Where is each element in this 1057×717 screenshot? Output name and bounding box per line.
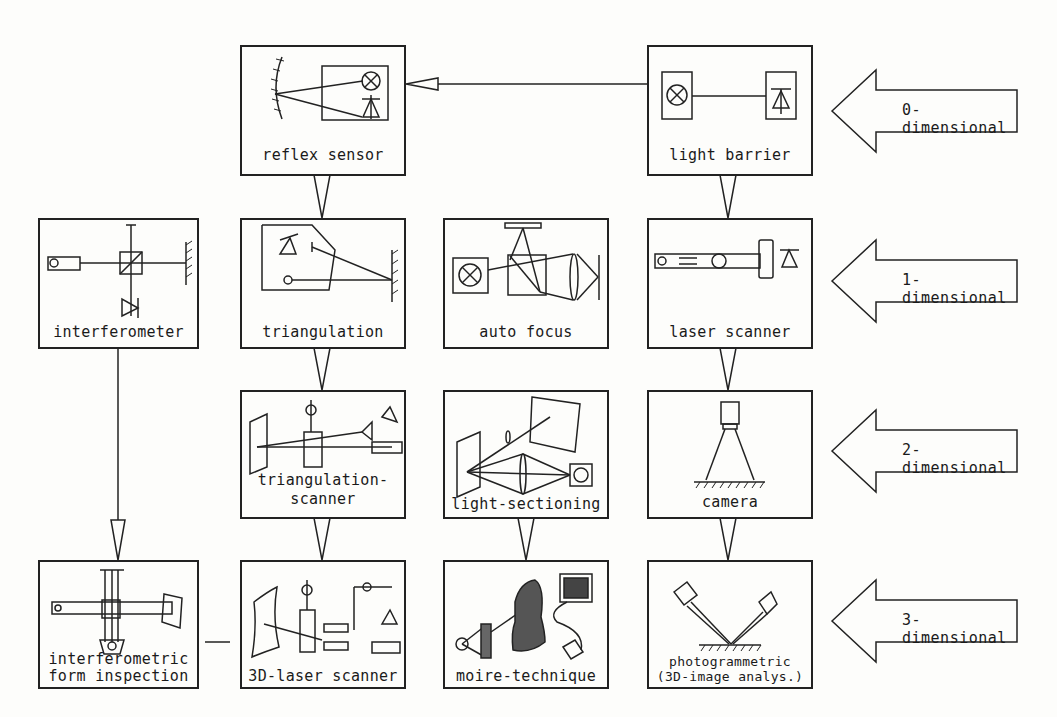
node-label-line2: (3D-image analys.) xyxy=(649,668,811,685)
node-label: moire-technique xyxy=(445,668,607,685)
node-triangulation: triangulation xyxy=(240,218,406,349)
dimension-arrow-0d: 0-dimensional xyxy=(830,68,1020,154)
dimension-arrow-1d: 1-dimensional xyxy=(830,238,1020,324)
node-label: 3D-laser scanner xyxy=(242,668,404,685)
node-light-barrier: light barrier xyxy=(647,45,813,176)
light-source-icon xyxy=(284,276,292,284)
node-label: auto focus xyxy=(445,324,607,341)
camera-icon xyxy=(759,592,777,614)
node-label: light barrier xyxy=(649,147,811,164)
dimension-label: 0-dimensional xyxy=(902,101,1020,137)
node-label: triangulation xyxy=(242,324,404,341)
node-light-sectioning: light-sectioning xyxy=(443,390,609,519)
node-label: laser scanner xyxy=(649,324,811,341)
node-camera: camera xyxy=(647,390,813,519)
node-3d-laser-scanner: 3D-laser scanner xyxy=(240,560,406,689)
node-label-line1: triangulation- xyxy=(242,472,404,489)
node-triangulation-scanner: triangulation- scanner xyxy=(240,390,406,519)
node-auto-focus: auto focus xyxy=(443,218,609,349)
node-label: camera xyxy=(649,494,811,511)
node-moire-technique: moire-technique xyxy=(443,560,609,689)
scanner-mirror-icon xyxy=(759,240,773,278)
dimension-arrow-2d: 2-dimensional xyxy=(830,408,1020,494)
node-reflex-sensor: reflex sensor xyxy=(240,45,406,176)
node-label-line1: interferometric xyxy=(40,651,197,668)
node-interferometer: interferometer xyxy=(38,218,199,349)
lens-icon xyxy=(570,254,578,300)
laser-icon xyxy=(372,642,400,653)
photodiode-icon xyxy=(782,250,797,267)
camera-icon xyxy=(721,402,739,424)
node-label: reflex sensor xyxy=(242,147,404,164)
dimension-label: 1-dimensional xyxy=(902,271,1020,307)
lamp-icon xyxy=(574,468,588,482)
node-laser-scanner: laser scanner xyxy=(647,218,813,349)
photodiode-icon xyxy=(280,238,296,254)
node-label: light-sectioning xyxy=(445,496,607,513)
dimension-arrow-3d: 3-dimensional xyxy=(830,578,1020,664)
node-label-line2: scanner xyxy=(242,491,404,508)
node-label: interferometer xyxy=(40,324,197,341)
node-interferometric-form-inspection: interferometric form inspection xyxy=(38,560,199,689)
node-photogrammetric: photogrammetric (3D-image analys.) xyxy=(647,560,813,689)
laser-icon xyxy=(655,254,760,268)
camera-icon xyxy=(674,582,697,605)
photodiode-icon xyxy=(382,407,397,422)
node-label-line2: form inspection xyxy=(40,668,197,685)
dimension-label: 3-dimensional xyxy=(902,611,1020,647)
laser-icon xyxy=(55,605,61,611)
arrowhead-left xyxy=(406,78,438,90)
dimension-label: 2-dimensional xyxy=(902,441,1020,477)
photodiode-icon xyxy=(122,299,138,316)
photodiode-icon xyxy=(382,610,397,624)
